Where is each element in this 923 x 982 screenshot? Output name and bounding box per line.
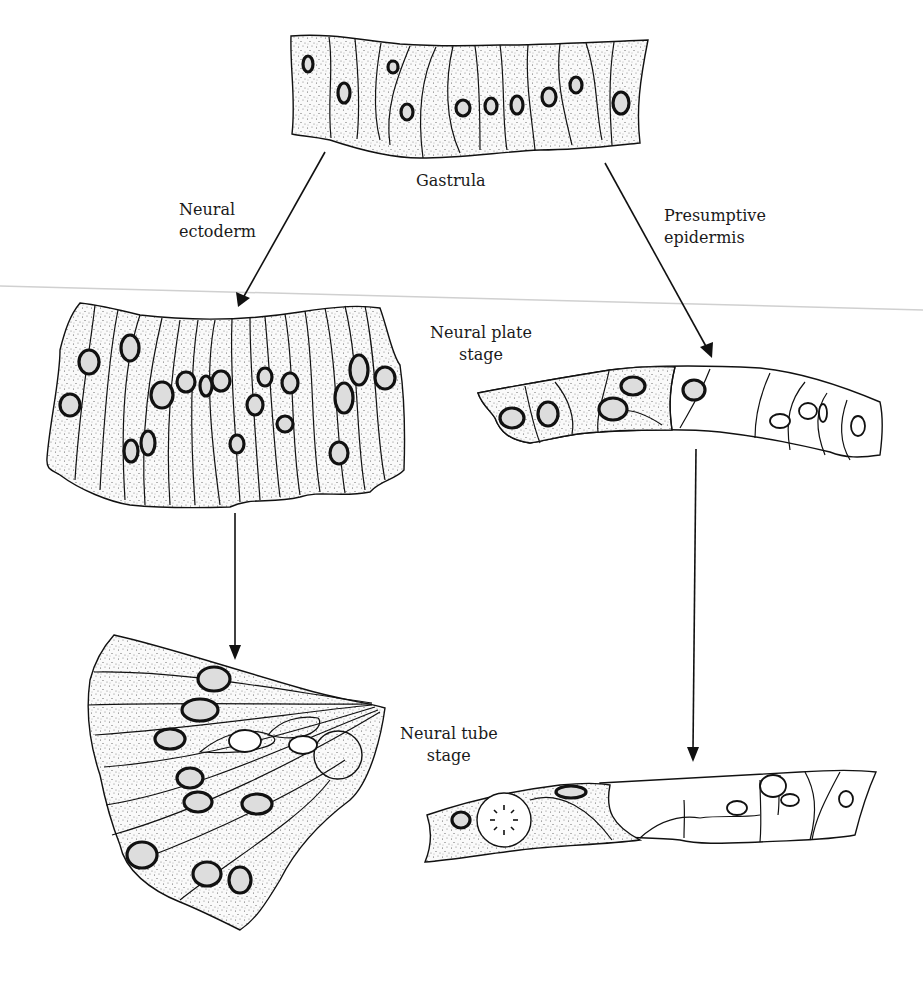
arrow-neural-plate-to-neural-tube [229, 513, 241, 660]
arrow-gastrula-to-presumptive-epidermis [605, 163, 713, 358]
scan-line-artifact [0, 286, 923, 310]
label-gastrula: Gastrula [416, 170, 486, 192]
label-presumptive-epidermis-line2: epidermis [664, 227, 766, 249]
arrow-presumptive-epidermis-to-epidermis [687, 449, 699, 762]
diagram-canvas: Gastrula Neural ectoderm Presumptive epi… [0, 0, 923, 982]
neural-tube-epithelium [88, 635, 385, 930]
neural-plate-epithelium [47, 303, 405, 508]
label-gastrula-text: Gastrula [416, 170, 486, 192]
presumptive-epidermis-epithelium [478, 366, 882, 460]
label-presumptive-epidermis-line1: Presumptive [664, 205, 766, 227]
label-presumptive-epidermis: Presumptive epidermis [664, 205, 766, 249]
label-neural-plate-line1: Neural plate [430, 322, 532, 344]
label-neural-ectoderm-line2: ectoderm [179, 221, 256, 243]
gastrula-epithelium [291, 35, 648, 158]
label-neural-ectoderm: Neural ectoderm [179, 199, 256, 243]
label-neural-tube-line1: Neural tube [400, 723, 498, 745]
diagram-svg [0, 0, 923, 982]
label-neural-tube-stage: Neural tube stage [400, 723, 498, 767]
label-neural-ectoderm-line1: Neural [179, 199, 256, 221]
label-neural-plate-stage: Neural plate stage [430, 322, 532, 366]
label-neural-plate-line2: stage [430, 344, 532, 366]
label-neural-tube-line2: stage [400, 745, 498, 767]
epidermis-epithelium [425, 771, 876, 863]
